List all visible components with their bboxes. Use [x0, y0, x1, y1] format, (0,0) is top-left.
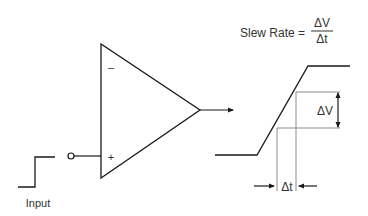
formula-label: Slew Rate =: [240, 26, 305, 40]
opamp-triangle: [101, 44, 200, 178]
input-step-waveform: [18, 157, 55, 187]
noninverting-input-symbol: +: [108, 151, 114, 163]
slew-rate-diagram: Slew Rate = ΔV Δt Input – + ΔV Δt: [0, 0, 368, 216]
input-label: Input: [26, 197, 50, 209]
inverting-input-symbol: –: [108, 61, 115, 73]
delta-v-label: ΔV: [317, 104, 333, 118]
formula-denominator: Δt: [316, 32, 328, 46]
input-terminal: [68, 153, 74, 159]
delta-t-label: Δt: [281, 180, 293, 194]
formula-numerator: ΔV: [314, 16, 330, 30]
